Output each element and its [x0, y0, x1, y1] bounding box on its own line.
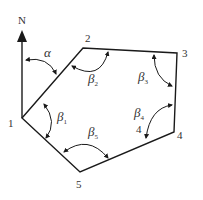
- vertex-label-5: 5: [76, 178, 82, 190]
- vertex-label-4: 4: [177, 129, 183, 141]
- north-arrow-icon: [17, 30, 27, 118]
- beta1-label: β1: [56, 109, 67, 126]
- traverse-polygon: [22, 48, 177, 172]
- beta2-label: β2: [87, 71, 98, 88]
- vertex-label-1: 1: [8, 117, 14, 129]
- beta4-label: β4: [133, 105, 144, 122]
- traverse-diagram: N 1 2 3 4 5 α β2 β3 β4 4 β1 β5: [0, 0, 203, 200]
- north-label: N: [18, 14, 26, 26]
- beta5-arc: [64, 144, 108, 158]
- beta3-arc: [154, 55, 172, 86]
- polygon-traverse-figure: N 1 2 3 4 5 α β2 β3 β4 4 β1 β5: [0, 0, 203, 200]
- beta4-arc: [146, 105, 172, 138]
- beta4-extra-label: 4: [136, 123, 142, 135]
- vertex-label-3: 3: [182, 47, 188, 59]
- beta3-label: β3: [137, 69, 148, 86]
- beta5-label: β5: [87, 124, 98, 141]
- alpha-arc: [26, 59, 56, 74]
- vertex-label-2: 2: [85, 32, 91, 44]
- beta1-arc: [44, 104, 52, 138]
- alpha-label: α: [44, 45, 52, 60]
